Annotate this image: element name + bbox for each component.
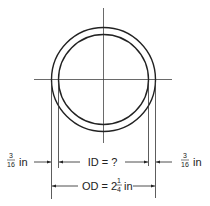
- od-label: OD = 2 1 4 in: [82, 177, 133, 193]
- right-thickness-denominator: 16: [181, 161, 189, 168]
- left-thickness-unit: in: [19, 156, 28, 168]
- left-thickness-numerator: 3: [9, 152, 13, 159]
- right-thickness-label: 3 16 in: [181, 152, 202, 168]
- right-thickness-unit: in: [193, 156, 202, 168]
- od-unit: in: [124, 180, 133, 192]
- tube-cross-section-diagram: 3 16 in 3 16 in ID = ? OD = 2 1 4 in: [0, 0, 210, 206]
- od-numerator: 1: [117, 177, 121, 184]
- left-thickness-label: 3 16 in: [7, 152, 28, 168]
- od-denominator: 4: [117, 186, 121, 193]
- od-label-prefix: OD = 2: [82, 180, 117, 192]
- id-label: ID = ?: [88, 156, 118, 168]
- left-thickness-denominator: 16: [7, 161, 15, 168]
- right-thickness-numerator: 3: [183, 152, 187, 159]
- diagram-canvas: 3 16 in 3 16 in ID = ? OD = 2 1 4 in: [0, 0, 210, 206]
